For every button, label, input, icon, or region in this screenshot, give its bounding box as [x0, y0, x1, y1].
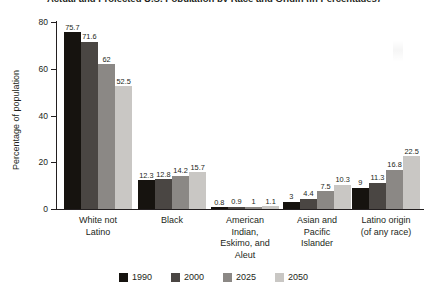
- legend-item[interactable]: 1990: [119, 272, 152, 282]
- bar: [115, 86, 132, 209]
- category-label-line: Latino origin: [331, 215, 427, 227]
- plot-area: 75.771.66252.512.312.814.215.70.80.911.1…: [57, 22, 424, 209]
- bar: [64, 32, 81, 209]
- bar: [245, 207, 262, 209]
- x-axis-line: [56, 209, 424, 210]
- category-label-line: Latino: [43, 227, 153, 239]
- category-label-line: Aleut: [190, 250, 300, 262]
- bar-value-label: 7.5: [320, 182, 330, 191]
- bar: [189, 172, 206, 209]
- legend-item[interactable]: 2000: [171, 272, 204, 282]
- y-axis-tick-mark: [51, 162, 56, 163]
- legend-swatch: [171, 273, 180, 282]
- bar-value-label: 15.7: [190, 163, 204, 172]
- y-axis-tick-label: 20: [8, 157, 48, 167]
- category-label-line: Islander: [262, 238, 372, 250]
- bar-value-label: 4.4: [303, 189, 313, 198]
- x-axis-category-label: Latino origin(of any race): [331, 215, 427, 238]
- y-axis-tick-label: 40: [8, 111, 48, 121]
- bar-value-label: 10.3: [335, 175, 349, 184]
- y-axis-tick-mark: [51, 22, 56, 23]
- bar-value-label: 3: [289, 192, 293, 201]
- bar: [403, 156, 420, 209]
- y-axis-tick-mark: [51, 69, 56, 70]
- bar-value-label: 0.9: [231, 197, 241, 206]
- y-axis-tick-mark: [51, 209, 56, 210]
- y-axis-tick-mark: [51, 116, 56, 117]
- y-axis-tick-label: 0: [8, 204, 48, 214]
- bar: [317, 191, 334, 209]
- legend-swatch: [119, 273, 128, 282]
- legend-swatch: [223, 273, 232, 282]
- bar-value-label: 14.2: [173, 166, 187, 175]
- bar-value-label: 1: [251, 197, 255, 206]
- bar: [300, 199, 317, 209]
- bar-value-label: 75.7: [65, 23, 79, 32]
- bar: [211, 207, 228, 209]
- legend-swatch: [275, 273, 284, 282]
- legend-item[interactable]: 2050: [275, 272, 308, 282]
- y-axis-tick-label: 60: [8, 64, 48, 74]
- bar-value-label: 71.6: [82, 32, 96, 41]
- legend-label: 2000: [184, 272, 204, 282]
- bar-value-label: 9: [358, 178, 362, 187]
- bar: [334, 185, 351, 209]
- bar-value-label: 52.5: [116, 77, 130, 86]
- bar: [369, 183, 386, 209]
- bar-value-label: 12.3: [139, 171, 153, 180]
- bar-value-label: 16.8: [387, 160, 401, 169]
- chart-title: Actual and Projected U.S. Population by …: [0, 0, 427, 2]
- bar: [172, 176, 189, 209]
- bar: [283, 202, 300, 209]
- bar-value-label: 1.1: [266, 197, 276, 206]
- legend: 1990200020252050: [0, 272, 427, 282]
- legend-item[interactable]: 2025: [223, 272, 256, 282]
- bar-value-label: 22.5: [404, 147, 418, 156]
- category-label-line: (of any race): [331, 227, 427, 239]
- bar-value-label: 62: [102, 55, 110, 64]
- bar-value-label: 11.3: [371, 173, 385, 182]
- bar: [386, 170, 403, 209]
- bar-value-label: 12.8: [156, 170, 170, 179]
- bar: [228, 207, 245, 209]
- bar: [352, 188, 369, 209]
- y-axis-tick-label: 80: [8, 17, 48, 27]
- legend-label: 2050: [288, 272, 308, 282]
- bar: [262, 206, 279, 209]
- legend-label: 2025: [236, 272, 256, 282]
- bar: [138, 180, 155, 209]
- bar: [155, 179, 172, 209]
- legend-label: 1990: [132, 272, 152, 282]
- bar-value-label: 0.8: [214, 198, 224, 207]
- bar: [98, 64, 115, 209]
- bar: [81, 42, 98, 209]
